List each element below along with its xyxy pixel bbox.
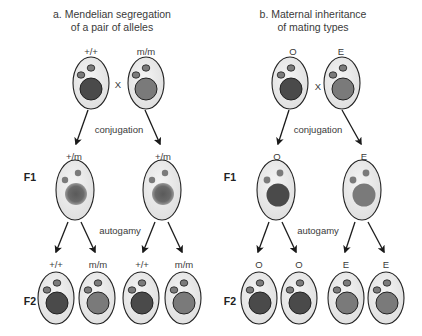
f2-cell	[79, 272, 115, 324]
f2-mating-type-label: O	[255, 259, 262, 270]
f1-cell-o	[257, 160, 295, 220]
f1-cell	[143, 160, 181, 220]
generation-label-f2: F2	[224, 295, 236, 307]
parent-cell-o	[272, 57, 308, 109]
f2-genotype-label: +/+	[135, 259, 149, 270]
diagram-canvas: a. Mendelian segregation of a pair of al…	[0, 0, 422, 336]
f2-cell	[165, 272, 201, 324]
f2-genotype-label: m/m	[89, 259, 108, 270]
f2-mating-type-label: E	[343, 259, 349, 270]
parent-mating-type-label: O	[289, 46, 296, 57]
parent-cell-e	[324, 57, 360, 109]
panel-a-title-line2: of a pair of alleles	[71, 21, 153, 33]
parent-genotype-label: +/+	[84, 46, 98, 57]
parent-cell-wildtype	[73, 57, 109, 109]
arrow-icon	[143, 222, 155, 252]
f2-cell	[281, 272, 317, 324]
f2-mating-type-label: E	[383, 259, 389, 270]
generation-label-f1: F1	[24, 171, 36, 183]
generation-label-f2: F2	[24, 295, 36, 307]
f2-mating-type-label: O	[295, 259, 302, 270]
generation-label-f1: F1	[224, 171, 236, 183]
f1-cell	[56, 160, 94, 220]
f2-cell	[368, 272, 404, 324]
f1-cell-e	[343, 160, 381, 220]
process-label-autogamy: autogamy	[99, 225, 141, 236]
arrow-icon	[258, 222, 269, 252]
f2-cell	[123, 272, 159, 324]
f2-cell	[328, 272, 364, 324]
f2-cell	[241, 272, 277, 324]
panel-a-title-line1: a. Mendelian segregation	[53, 8, 171, 20]
arrow-icon	[81, 222, 95, 252]
arrow-icon	[56, 222, 68, 252]
cross-symbol: X	[115, 79, 122, 90]
process-label-conjugation: conjugation	[294, 124, 343, 135]
panel-b-title-line2: of mating types	[277, 21, 348, 33]
panel-a: a. Mendelian segregation of a pair of al…	[24, 8, 201, 324]
arrow-icon	[342, 110, 361, 144]
arrow-icon	[345, 222, 355, 252]
process-label-conjugation: conjugation	[95, 124, 144, 135]
f2-genotype-label: m/m	[175, 259, 194, 270]
cross-symbol: X	[315, 81, 322, 92]
arrow-icon	[168, 222, 182, 252]
f2-cell	[38, 272, 74, 324]
arrow-icon	[278, 110, 289, 144]
parent-mating-type-label: E	[338, 46, 344, 57]
parent-genotype-label: m/m	[137, 46, 156, 57]
process-label-autogamy: autogamy	[297, 225, 339, 236]
parent-cell-mutant	[128, 57, 164, 109]
arrow-icon	[368, 222, 384, 252]
panel-b: b. Maternal inheritance of mating types …	[224, 8, 404, 324]
panel-b-title-line1: b. Maternal inheritance	[260, 8, 367, 20]
arrow-icon	[282, 222, 296, 252]
arrow-icon	[145, 110, 160, 144]
arrow-icon	[76, 110, 88, 144]
f2-genotype-label: +/+	[49, 259, 63, 270]
